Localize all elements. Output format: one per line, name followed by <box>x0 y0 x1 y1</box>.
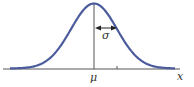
normal-distribution-diagram: σ μ x <box>0 0 194 87</box>
mean-label: μ <box>90 71 97 84</box>
sigma-label: σ <box>102 29 110 42</box>
bell-curve <box>10 4 175 69</box>
x-axis-label: x <box>177 70 184 83</box>
